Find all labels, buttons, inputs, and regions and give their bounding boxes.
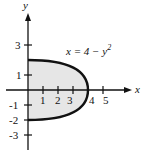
x-tick-label: 3 bbox=[67, 94, 73, 106]
x-tick-label: 1 bbox=[40, 94, 46, 106]
y-tick-label: 3 bbox=[15, 39, 21, 51]
y-tick-label: -1 bbox=[9, 99, 18, 111]
x-tick-label: 2 bbox=[55, 94, 61, 106]
x-axis-arrow-icon bbox=[124, 87, 132, 93]
x-tick-label: 4 bbox=[89, 94, 95, 106]
y-tick-label: -2 bbox=[9, 114, 18, 126]
parabola-region-chart: y x 1 2 3 4 5 3 1 -1 -2 -3 x = 4 − y2 bbox=[0, 0, 145, 159]
y-axis-arrow-icon bbox=[25, 13, 31, 21]
x-axis-label: x bbox=[134, 83, 140, 95]
x-tick-label: 5 bbox=[103, 94, 109, 106]
y-tick-label: 1 bbox=[16, 69, 22, 81]
y-axis-label: y bbox=[22, 0, 28, 11]
y-tick-label: -3 bbox=[9, 129, 19, 141]
equation-label: x = 4 − y2 bbox=[65, 43, 111, 57]
